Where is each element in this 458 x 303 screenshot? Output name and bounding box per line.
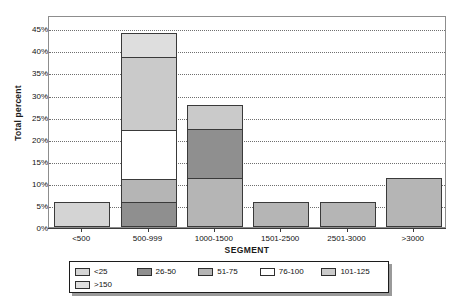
legend-item: <25 <box>75 265 137 278</box>
legend-label: 101-125 <box>340 267 369 276</box>
y-tick-label: 5% <box>18 201 48 210</box>
x-tick-mark <box>413 228 414 232</box>
legend-label: >150 <box>94 280 112 289</box>
x-tick-mark <box>148 228 149 232</box>
x-tick-label: >3000 <box>402 234 424 243</box>
bar-group <box>187 106 243 227</box>
bar-segment <box>386 178 442 227</box>
legend-swatch <box>75 268 90 276</box>
bar-segment <box>253 202 309 227</box>
legend-swatch <box>198 268 213 276</box>
legend-label: <25 <box>94 267 108 276</box>
bar-segment <box>187 105 243 130</box>
legend-item: 51-75 <box>198 265 260 278</box>
x-tick-mark <box>214 228 215 232</box>
x-tick-label: 1000-1500 <box>195 234 233 243</box>
y-tick-label: 20% <box>18 135 48 144</box>
x-tick-label: 2501-3000 <box>327 234 365 243</box>
legend-swatch <box>75 281 90 289</box>
legend-item: 76-100 <box>260 265 322 278</box>
bar-group <box>386 179 442 227</box>
bar-group <box>253 203 309 227</box>
y-tick-label: 0% <box>18 224 48 233</box>
bar-group <box>54 203 110 227</box>
bar-segment <box>121 179 177 204</box>
y-axis-ticks: 0%5%10%15%20%25%30%35%40%45% <box>0 16 48 228</box>
bar-segment <box>320 202 376 227</box>
bar-segment <box>54 202 110 227</box>
y-tick-label: 35% <box>18 69 48 78</box>
x-tick-label: <500 <box>72 234 90 243</box>
legend-swatch <box>137 268 152 276</box>
legend-item: 101-125 <box>321 265 383 278</box>
y-tick-label: 30% <box>18 91 48 100</box>
bars-layer <box>49 17 445 227</box>
y-tick-label: 10% <box>18 179 48 188</box>
bar-segment <box>121 130 177 179</box>
y-tick-label: 40% <box>18 47 48 56</box>
x-tick-mark <box>81 228 82 232</box>
legend-item: >150 <box>75 278 137 291</box>
legend-row: >150 <box>75 278 383 291</box>
x-axis-line <box>48 228 446 229</box>
y-tick-label: 15% <box>18 157 48 166</box>
chart-legend: <2526-5051-7576-100101-125 >150 <box>69 261 389 293</box>
legend-label: 26-50 <box>156 267 176 276</box>
x-tick-mark <box>280 228 281 232</box>
legend-swatch <box>321 268 336 276</box>
x-tick-label: 500-999 <box>133 234 162 243</box>
bar-segment <box>121 57 177 131</box>
x-tick-label: 1501-2500 <box>261 234 299 243</box>
x-axis-title: SEGMENT <box>48 245 446 255</box>
legend-item: 26-50 <box>137 265 199 278</box>
bar-segment <box>121 202 177 227</box>
y-tick-label: 25% <box>18 113 48 122</box>
bar-segment <box>187 129 243 178</box>
x-tick-mark <box>347 228 348 232</box>
stacked-bar-chart: Total percent 0%5%10%15%20%25%30%35%40%4… <box>0 0 458 303</box>
legend-label: 76-100 <box>279 267 304 276</box>
plot-area <box>48 16 446 228</box>
bar-group <box>121 34 177 227</box>
legend-swatch <box>260 268 275 276</box>
y-tick-label: 45% <box>18 25 48 34</box>
bar-segment <box>187 178 243 227</box>
legend-label: 51-75 <box>217 267 237 276</box>
legend-row: <2526-5051-7576-100101-125 <box>75 265 383 278</box>
bar-segment <box>121 33 177 58</box>
bar-group <box>320 203 376 227</box>
